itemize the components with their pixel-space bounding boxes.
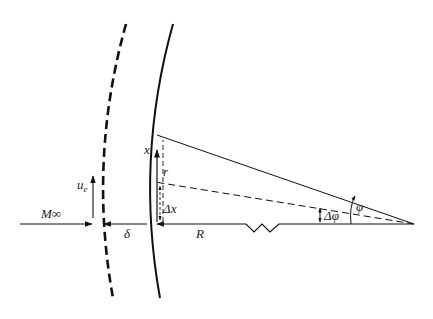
- surface-coordinate-label: x: [143, 142, 150, 157]
- angle-increment-label: Δφ: [323, 208, 339, 223]
- standoff-label: δ: [124, 226, 131, 241]
- ray-phi: [157, 135, 414, 224]
- diagram-canvas: M∞ ue δ R x r Δx φ Δφ: [0, 0, 433, 319]
- local-radius-label: r: [163, 164, 169, 179]
- ray-phi-minus-dphi: [155, 182, 414, 224]
- edge-velocity-label: ue: [77, 177, 88, 194]
- body-surface: [150, 24, 173, 298]
- angle-label: φ: [356, 199, 363, 214]
- radius-label: R: [195, 226, 204, 241]
- shock-wave: [103, 24, 126, 298]
- freestream-mach-label: M∞: [40, 206, 61, 221]
- arc-increment-label: Δx: [162, 201, 177, 216]
- phi-angle-arc: [351, 196, 356, 224]
